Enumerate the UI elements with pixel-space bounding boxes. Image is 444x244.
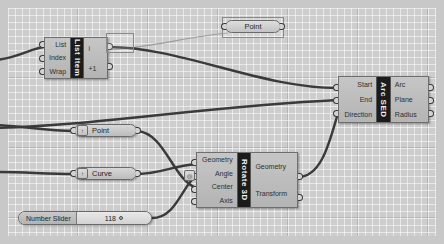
number-slider[interactable]: Number Slider 118 [18,211,152,225]
nub-in-axis[interactable] [191,198,196,205]
component-title-list-item: List Item [70,38,84,78]
nub-in-index[interactable] [39,55,44,62]
nub-curve-mid-in[interactable] [70,170,75,177]
component-rotate-3d[interactable]: Geometry Angle Center Axis Rotate 3D Geo… [196,152,298,208]
port-out-arc[interactable]: Arc [391,80,410,89]
port-in-wrap[interactable]: Wrap [46,67,71,76]
port-out-plane[interactable]: Plane [391,95,417,104]
port-in-start[interactable]: Start [353,80,376,89]
wire-listitem-arc-start [109,47,338,88]
nub-in-start[interactable] [333,84,338,91]
grasshopper-canvas[interactable]: List Index Wrap List Item i +1 Point [0,0,444,244]
port-out-plus1[interactable]: +1 [84,64,100,73]
port-in-geometry[interactable]: Geometry [198,155,237,164]
port-in-direction[interactable]: Direction [341,110,377,119]
nub-in-direction[interactable] [333,110,338,117]
port-in-index[interactable]: Index [45,53,70,62]
port-in-list[interactable]: List [51,40,70,49]
component-list-item[interactable]: List Index Wrap List Item i +1 [44,37,108,79]
port-out-radius[interactable]: Radius [391,110,421,119]
nub-in-wrap[interactable] [39,68,44,75]
param-point-mid[interactable]: ↑ Point [74,124,137,137]
selection-highlight [106,33,134,53]
param-curve-mid[interactable]: ↑ Curve [74,167,137,180]
wire-in-list [0,47,44,60]
port-in-angle[interactable]: Angle [211,169,237,178]
nub-point-mid-in[interactable] [70,127,75,134]
number-slider-value: 118 [105,215,116,222]
port-out-geometry[interactable]: Geometry [251,162,290,171]
port-out-transform[interactable]: Transform [251,189,291,198]
component-title-rotate-3d: Rotate 3D [237,153,252,207]
angle-unit-badge-icon[interactable]: ◎ [184,170,195,181]
wire-in-curve-mid [0,172,74,174]
param-point-top[interactable]: Point [225,20,281,33]
number-slider-grip[interactable] [119,216,123,220]
port-in-axis[interactable]: Axis [216,196,237,205]
port-out-i[interactable]: i [84,44,94,53]
param-point-top-label: Point [244,22,261,31]
nub-point-top-in[interactable] [221,23,226,30]
number-slider-label: Number Slider [19,212,77,224]
wire-rotate-arc-direction [298,113,338,177]
param-curve-mid-label: Curve [88,169,112,178]
number-slider-value-area[interactable]: 118 [77,212,151,224]
component-title-arc-sed: Arc SED [376,77,391,122]
nub-in-end[interactable] [333,97,338,104]
port-in-center[interactable]: Center [208,182,237,191]
wire-slider-rotate-angle [152,176,196,218]
component-arc-sed[interactable]: Start End Direction Arc SED Arc Plane Ra… [338,76,429,123]
nub-slider-out[interactable] [151,215,152,222]
curve-mid-badge-icon: ↑ [77,168,88,179]
point-mid-badge-icon: ↑ [77,125,88,136]
port-in-end[interactable]: End [356,95,376,104]
nub-in-geometry[interactable] [191,159,196,166]
nub-in-center[interactable] [191,186,196,193]
wire-in-arc-end [0,100,338,128]
param-point-mid-label: Point [88,126,109,135]
nub-in-list[interactable] [39,41,44,48]
param-point-top-group[interactable]: Point [225,20,281,33]
